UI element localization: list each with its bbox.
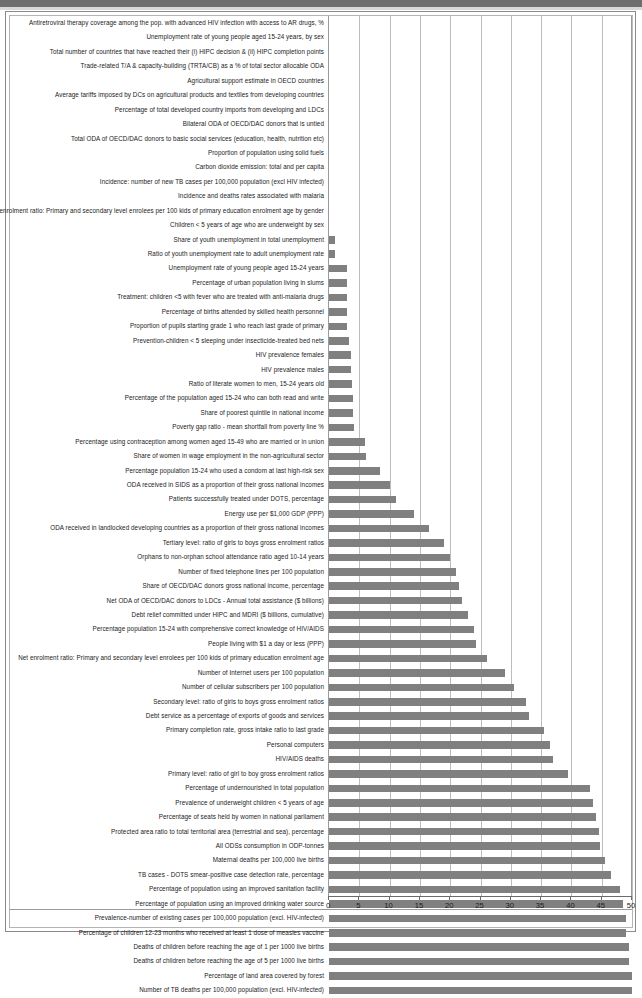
bar [329, 611, 468, 619]
category-label-row: Personal computers [10, 738, 328, 752]
bar-row [329, 666, 632, 680]
category-label-row: Patients successfully treated under DOTS… [10, 492, 328, 506]
category-label-row: Net ODA of OECD/DAC donors to LDCs - Ann… [10, 594, 328, 608]
bar-row [329, 290, 632, 304]
bar-row [329, 622, 632, 636]
bar [329, 395, 353, 403]
bar-row [329, 709, 632, 723]
bar-row [329, 825, 632, 839]
category-label-row: Primary level: ratio of girl to boy gros… [10, 767, 328, 781]
bar [329, 467, 380, 475]
category-label: Ratio of literate women to men, 15-24 ye… [189, 377, 324, 391]
category-label: Percentage of urban population living in… [192, 276, 324, 290]
category-label-row: Debt relief committed under HIPC and MDR… [10, 608, 328, 622]
bar [329, 929, 626, 937]
bar-row [329, 594, 632, 608]
category-label: Deaths of children before reaching the a… [133, 954, 324, 968]
category-label: Carbon dioxide emission: total and per c… [195, 160, 324, 174]
category-label-row: Percentage of urban population living in… [10, 276, 328, 290]
category-label: Share of poorest quintile in national in… [200, 406, 324, 420]
bar [329, 972, 632, 980]
category-label-row: Percentage of the population aged 15-24 … [10, 391, 328, 405]
category-label: Deaths of children before reaching the a… [133, 940, 324, 954]
bar-row [329, 305, 632, 319]
bar-row [329, 767, 632, 781]
bar-row [329, 853, 632, 867]
bar-row [329, 391, 632, 405]
bar [329, 554, 450, 562]
category-label: Share of women in wage employment in the… [133, 449, 324, 463]
bar [329, 857, 605, 865]
category-label-row: Percentage of seats held by women in nat… [10, 810, 328, 824]
bar-row [329, 550, 632, 564]
bar-row [329, 160, 632, 174]
category-label: Debt relief committed under HIPC and MDR… [132, 608, 324, 622]
category-label-row: Poverty gap ratio - mean shortfall from … [10, 420, 328, 434]
x-tick-45 [601, 896, 602, 900]
bar-row [329, 74, 632, 88]
bar [329, 842, 600, 850]
bar-row [329, 651, 632, 665]
bar [329, 886, 620, 894]
bar-row [329, 146, 632, 160]
category-label-row: Children < 5 years of age who are underw… [10, 218, 328, 232]
category-label-row: Incidence and deaths rates associated wi… [10, 189, 328, 203]
category-label: Secondary level: ratio of girls to boys … [153, 695, 324, 709]
bar-row [329, 579, 632, 593]
category-label: Patients successfully treated under DOTS… [169, 492, 324, 506]
horizontal-bar-chart: Antiretroviral therapy coverage among th… [10, 16, 632, 927]
bar [329, 799, 593, 807]
bar [329, 828, 599, 836]
bar-row [329, 796, 632, 810]
category-label: Tertiary level: ratio of girls to boys g… [163, 536, 324, 550]
category-label: Agricultural support estimate in OECD co… [187, 74, 324, 88]
bar-row [329, 464, 632, 478]
category-label-row: Secondary level: ratio of girls to boys … [10, 695, 328, 709]
category-label-row: Number of TB deaths per 100,000 populati… [10, 983, 328, 997]
bar-row [329, 348, 632, 362]
bar-row [329, 680, 632, 694]
bar [329, 958, 629, 966]
bar [329, 626, 474, 634]
category-label-row: Unemployment rate of young people aged 1… [10, 30, 328, 44]
bar [329, 279, 347, 287]
bar-row [329, 103, 632, 117]
category-label-row: Prevention-children < 5 sleeping under i… [10, 334, 328, 348]
category-label: Share of youth unemployment in total une… [174, 233, 324, 247]
category-label: HIV prevalence females [256, 348, 324, 362]
bar [329, 265, 347, 273]
bar [329, 770, 568, 778]
category-label-row: Tertiary level: ratio of girls to boys g… [10, 536, 328, 550]
bar [329, 380, 352, 388]
category-label: ODA received in landlocked developing co… [50, 521, 324, 535]
category-label: Number of TB deaths per 100,000 populati… [139, 983, 324, 997]
category-label-row: Average tariffs imposed by DCs on agricu… [10, 88, 328, 102]
bar-row [329, 926, 632, 940]
category-label-row: Incidence: number of new TB cases per 10… [10, 175, 328, 189]
category-label: Antiretroviral therapy coverage among th… [29, 16, 324, 30]
figure-bottom-rule [10, 909, 632, 910]
category-label-row: Proportion of pupils starting grade 1 wh… [10, 319, 328, 333]
category-label-row: Number of cellular subscribers per 100 p… [10, 680, 328, 694]
bar [329, 712, 529, 720]
bar [329, 582, 459, 590]
category-label-row: Prevalence-number of existing cases per … [10, 911, 328, 925]
category-label: Primary completion rate, gross intake ra… [166, 723, 324, 737]
bar [329, 813, 596, 821]
bar [329, 669, 505, 677]
category-label: Number of fixed telephone lines per 100 … [178, 565, 324, 579]
category-label-row: Agricultural support estimate in OECD co… [10, 74, 328, 88]
bar [329, 496, 396, 504]
bar [329, 597, 462, 605]
x-tick-30 [510, 896, 511, 900]
bar-row [329, 983, 632, 997]
bar-row [329, 565, 632, 579]
category-label-row: Percentage of population using an improv… [10, 882, 328, 896]
x-tick-20 [449, 896, 450, 900]
bar-row [329, 132, 632, 146]
bar [329, 351, 351, 359]
category-label: Percentage population 15-24 with compreh… [92, 622, 324, 636]
category-label-row: Deaths of children before reaching the a… [10, 940, 328, 954]
bar [329, 640, 476, 648]
bar [329, 409, 353, 417]
